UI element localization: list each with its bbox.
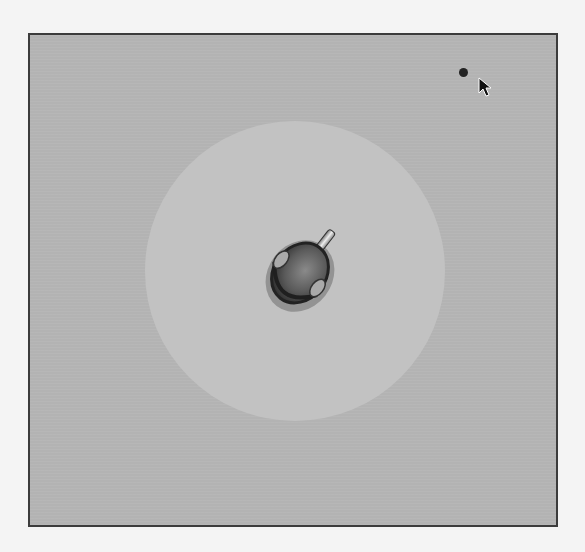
target-dot xyxy=(459,68,468,77)
play-area[interactable] xyxy=(28,33,558,527)
player-character-icon xyxy=(245,218,355,328)
mouse-cursor-icon xyxy=(478,77,494,99)
